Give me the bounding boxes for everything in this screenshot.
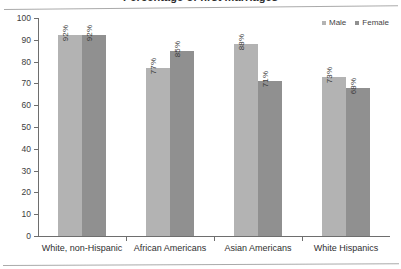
bar-male: 73% [322, 77, 346, 236]
bar-group: 92%92% [58, 35, 106, 236]
bar-value-label: 77% [149, 58, 158, 75]
y-axis-tick [34, 18, 38, 19]
bar-value-label: 88% [237, 34, 246, 51]
y-axis-tick [34, 62, 38, 63]
plot-area: 1009080706050403020100 92%92%77%85%88%71… [38, 18, 390, 236]
y-axis-tick [34, 83, 38, 84]
bar-male: 88% [234, 44, 258, 236]
y-axis-tick-label: 30 [22, 166, 31, 176]
x-axis-category-label: African Americans [134, 243, 207, 253]
y-axis-tick [34, 236, 38, 237]
y-axis-tick-label: 20 [22, 187, 31, 197]
y-axis-tick-label: 40 [22, 144, 31, 154]
x-axis-category-label: White Hispanics [314, 243, 379, 253]
y-axis-tick-label: 80 [22, 57, 31, 67]
chart-title: Percentage of first marriages [0, 0, 401, 3]
x-axis-category-label: White, non-Hispanic [42, 243, 123, 253]
bar-female: 68% [346, 88, 370, 236]
y-axis-tick-label: 50 [22, 122, 31, 132]
bar-female: 85% [170, 51, 194, 236]
bar-value-label: 73% [325, 67, 334, 84]
bar-value-label: 68% [349, 77, 358, 94]
y-axis-tick [34, 214, 38, 215]
bar-male: 92% [58, 35, 82, 236]
bar-value-label: 85% [173, 40, 182, 57]
x-axis-tick [126, 236, 127, 241]
y-axis-tick [34, 192, 38, 193]
y-axis-tick [34, 105, 38, 106]
top-divider-rule [4, 5, 398, 10]
bar-value-label: 92% [61, 25, 70, 42]
y-axis-tick [34, 149, 38, 150]
y-axis-tick-label: 100 [17, 13, 31, 23]
bar-value-label: 92% [85, 25, 94, 42]
y-axis-tick-label: 0 [26, 231, 31, 241]
x-axis-tick [214, 236, 215, 241]
y-axis-tick-label: 70 [22, 78, 31, 88]
y-axis-tick [34, 40, 38, 41]
x-axis-category-label: Asian Americans [224, 243, 291, 253]
x-axis-tick [302, 236, 303, 241]
bar-value-label: 71% [261, 71, 270, 88]
bar-group: 77%85% [146, 51, 194, 236]
y-axis-tick [34, 127, 38, 128]
bar-group: 88%71% [234, 44, 282, 236]
y-axis-tick [34, 171, 38, 172]
y-axis-tick-label: 60 [22, 100, 31, 110]
bottom-divider-rule [3, 263, 399, 266]
bar-female: 92% [82, 35, 106, 236]
bar-female: 71% [258, 81, 282, 236]
y-axis-tick-label: 90 [22, 35, 31, 45]
bar-male: 77% [146, 68, 170, 236]
y-axis-line [38, 18, 39, 236]
y-axis-tick-label: 10 [22, 209, 31, 219]
bar-group: 73%68% [322, 77, 370, 236]
